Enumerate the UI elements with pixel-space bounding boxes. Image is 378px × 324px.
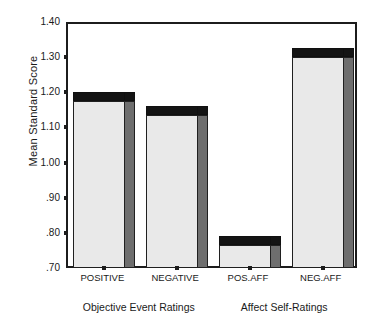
bar-top-corner (124, 92, 135, 101)
bar-side-panel (198, 115, 208, 268)
x-axis-category-label: NEG.AFF (276, 272, 366, 283)
bar-face (219, 245, 271, 268)
bar (292, 57, 344, 268)
bar-top-panel (73, 92, 125, 101)
bar (146, 115, 198, 268)
x-axis-tick-mark (321, 266, 325, 270)
x-axis-tick-mark (102, 266, 106, 270)
bar (73, 101, 125, 268)
y-axis-tick-label: 1.30 (26, 52, 60, 62)
bar-top-corner (270, 236, 281, 245)
bar-top-panel (146, 106, 198, 115)
bar-top-corner (197, 106, 208, 115)
bar-side-panel (344, 57, 354, 268)
x-axis-tick-mark (248, 266, 252, 270)
plot-area (66, 22, 357, 268)
x-axis-group-label: Objective Event Ratings (59, 301, 219, 313)
bar-top-panel (219, 236, 271, 245)
chart-figure: Mean Standard Score 1.401.301.201.101.00… (0, 0, 378, 324)
bar-face (73, 101, 125, 268)
bar-top-panel (292, 48, 344, 57)
bar-side-panel (125, 101, 135, 268)
bar-face (146, 115, 198, 268)
y-axis-tick-label: 1.40 (26, 17, 60, 27)
bar (219, 245, 271, 268)
x-axis-group-label: Affect Self-Ratings (204, 301, 364, 313)
y-axis-tick-label: 1.00 (26, 158, 60, 168)
bar-top-corner (343, 48, 354, 57)
y-axis-tick-label: .70 (26, 263, 60, 273)
x-axis-tick-mark (175, 266, 179, 270)
y-axis-tick-label: 1.10 (26, 122, 60, 132)
y-axis-tick-label: .90 (26, 193, 60, 203)
y-axis-tick-label: .80 (26, 228, 60, 238)
bar-face (292, 57, 344, 268)
y-axis-tick-label: 1.20 (26, 87, 60, 97)
bar-side-panel (271, 245, 281, 268)
